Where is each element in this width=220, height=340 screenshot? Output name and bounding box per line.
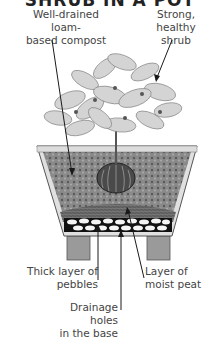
leader-shrub bbox=[156, 40, 172, 80]
pebble-layer bbox=[64, 218, 172, 232]
shrub-foliage bbox=[43, 50, 183, 138]
pot-feet bbox=[67, 236, 170, 260]
root-ball bbox=[97, 163, 135, 193]
